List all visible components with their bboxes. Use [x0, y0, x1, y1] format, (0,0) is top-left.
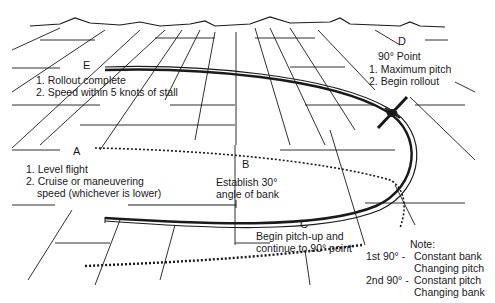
- note-phase-1-line-2: Changing pitch: [414, 262, 484, 274]
- point-d-line-1: 90° Point: [378, 50, 421, 62]
- point-b-line-2: angle of bank: [216, 188, 279, 200]
- point-e-label: E: [83, 59, 90, 71]
- point-a-line-2: 2. Cruise or maneuvering: [26, 175, 144, 187]
- mountain-horizon: [30, 17, 445, 27]
- point-b-line-1: Establish 30°: [216, 176, 277, 188]
- point-e-line-2: 2. Speed within 5 knots of stall: [36, 86, 178, 98]
- airplane-icon: [378, 97, 407, 128]
- point-c-label: C: [300, 218, 308, 230]
- point-d-label: D: [398, 35, 406, 47]
- point-d-line-3: 2. Begin rollout: [369, 75, 439, 87]
- point-c-line-1: Begin pitch-up and: [256, 230, 344, 242]
- point-a-line-3: speed (whichever is lower): [26, 187, 161, 199]
- point-a-line-1: 1. Level flight: [26, 163, 88, 175]
- bank-marker: [128, 200, 236, 208]
- point-a-label: A: [73, 145, 80, 157]
- note-phase-1-line-1: Constant bank: [414, 250, 482, 262]
- note-phase-2: 2nd 90° -: [366, 274, 409, 286]
- point-e-line-1: 1. Rollout complete: [36, 74, 126, 86]
- note-phase-2-line-2: Changing bank: [414, 286, 485, 298]
- point-b-label: B: [242, 158, 249, 170]
- point-d-line-2: 1. Maximum pitch: [369, 63, 451, 75]
- note-phase-1: 1st 90° -: [366, 250, 405, 262]
- point-c-line-2: continue to 90° point: [256, 242, 352, 254]
- note-phase-2-line-1: Constant pitch: [414, 274, 481, 286]
- note-title: Note:: [410, 238, 435, 250]
